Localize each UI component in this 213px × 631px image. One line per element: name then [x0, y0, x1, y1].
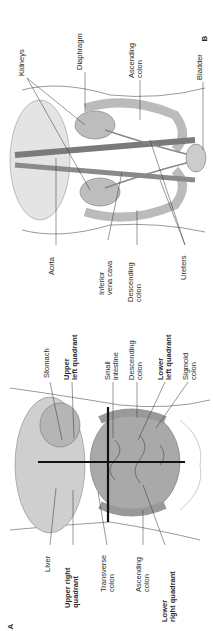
label-lower-right-quadrant: Lowerright quadrant: [161, 571, 177, 622]
label-liver: Liver: [44, 556, 52, 572]
label-ascending-colon-a: Ascendingcolon: [135, 557, 151, 592]
label-stomach: Stomach: [43, 348, 51, 378]
label-descending-colon-a: Descendingcolon: [128, 340, 144, 380]
panel-b-letter: B: [200, 36, 209, 42]
label-ascending-colon-b: Ascendingcolon: [128, 43, 144, 78]
label-aorta: Aorta: [48, 257, 56, 275]
label-upper-left-quadrant: Upperleft quadrant: [63, 335, 79, 380]
panel-a-letter: A: [6, 624, 15, 630]
label-ureters: Ureters: [180, 255, 188, 280]
label-small-intestine: Smallintestine: [104, 352, 120, 380]
label-kidneys: Kidneys: [18, 49, 26, 76]
anatomy-illustration: [0, 0, 213, 631]
label-sigmoid-colon: Sigmoidcolon: [182, 353, 198, 380]
label-inferior-vena-cava: Inferiorvena cava: [98, 261, 114, 295]
label-descending-colon-b: Descendingcolon: [127, 262, 143, 302]
label-bladder: Bladder: [196, 54, 204, 80]
label-transverse-colon: Transversecolon: [100, 555, 116, 592]
label-diaphragm: Diaphragm: [76, 33, 84, 70]
label-lower-left-quadrant: Lowerleft quadrant: [157, 335, 173, 380]
label-upper-right-quadrant: Upper rightquadrant: [64, 568, 80, 608]
